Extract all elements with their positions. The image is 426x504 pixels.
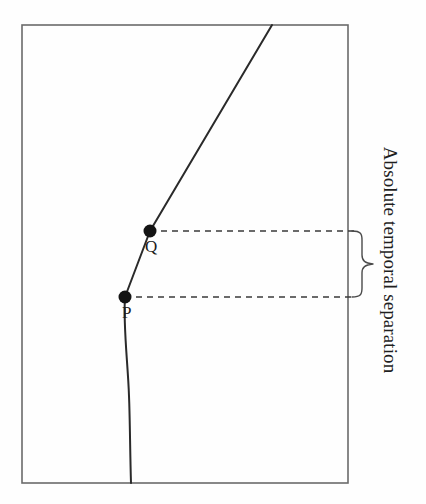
point-q-label: Q <box>145 238 157 255</box>
spacetime-diagram: Q P Absolute temporal separation <box>0 0 426 504</box>
diagram-canvas <box>0 0 426 504</box>
point-p-label: P <box>122 304 131 321</box>
point-p-marker <box>119 291 132 304</box>
separation-brace <box>352 231 373 297</box>
spacetime-frame <box>22 25 348 483</box>
point-q-marker <box>144 225 157 238</box>
absolute-temporal-separation-caption: Absolute temporal separation <box>379 147 401 374</box>
